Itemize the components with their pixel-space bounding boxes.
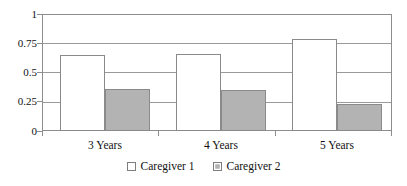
x-tickmark	[391, 131, 392, 136]
bar-caregiver2-3years	[105, 89, 150, 131]
x-tickmark	[42, 131, 43, 136]
legend-label: Caregiver 2	[227, 160, 281, 172]
bar-chart: 1 0.75 0.5 0.25 0 3 Years 4 Years 5 Year…	[0, 0, 407, 186]
legend-entry-caregiver1: Caregiver 1	[127, 160, 195, 172]
bar-caregiver1-4years	[176, 54, 221, 131]
chart-legend: Caregiver 1 Caregiver 2	[0, 160, 407, 172]
bars-layer	[42, 14, 392, 131]
white-square-swatch-icon	[127, 162, 136, 171]
x-tickmark	[158, 131, 159, 136]
bar-caregiver1-5years	[292, 39, 337, 131]
y-tick-label: 0.25	[0, 96, 37, 107]
y-tick-label: 1	[0, 9, 37, 20]
gray-square-swatch-icon	[213, 162, 222, 171]
bar-caregiver1-3years	[60, 55, 105, 131]
y-axis: 1 0.75 0.5 0.25 0	[0, 0, 37, 186]
x-tick-label-5-years: 5 Years	[320, 139, 354, 152]
bar-caregiver2-4years	[221, 90, 266, 131]
y-tick-label: 0.75	[0, 38, 37, 49]
x-tickmark	[275, 131, 276, 136]
legend-entry-caregiver2: Caregiver 2	[213, 160, 281, 172]
x-axis: 3 Years 4 Years 5 Years	[42, 131, 392, 161]
x-tick-label-3-years: 3 Years	[88, 139, 122, 152]
legend-label: Caregiver 1	[141, 160, 195, 172]
x-tick-label-4-years: 4 Years	[204, 139, 238, 152]
bar-caregiver2-5years	[337, 104, 382, 131]
y-tick-label: 0	[0, 126, 37, 137]
y-tick-label: 0.5	[0, 67, 37, 78]
